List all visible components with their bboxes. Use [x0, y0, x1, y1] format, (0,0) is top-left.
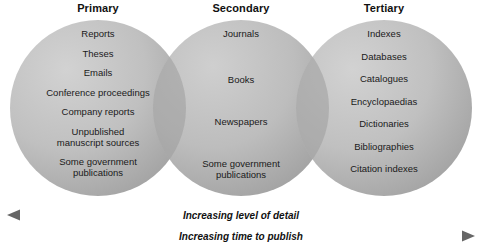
list-item: Catalogues: [360, 73, 408, 84]
list-item: Encyclopaedias: [351, 96, 418, 107]
list-item: Databases: [361, 51, 406, 62]
list-item: Newspapers: [215, 116, 268, 127]
list-item: Journals: [223, 28, 259, 39]
venn-list-tertiary: Indexes Databases Catalogues Encyclopaed…: [296, 20, 472, 204]
list-item: Indexes: [367, 28, 400, 39]
list-item: Dictionaries: [359, 118, 409, 129]
list-item: Company reports: [62, 106, 135, 117]
list-item: Theses: [82, 48, 113, 59]
list-item: Unpublished manuscript sources: [57, 126, 139, 148]
list-item: Emails: [84, 67, 113, 78]
list-item: Reports: [81, 28, 114, 39]
list-item: Some government publications: [59, 156, 137, 178]
list-item: Some government publications: [202, 158, 280, 180]
venn-diagram: Primary Secondary Tertiary: [0, 0, 482, 248]
arrow-increasing-time-to-publish: Increasing time to publish: [0, 226, 482, 246]
list-item: Conference proceedings: [46, 87, 150, 98]
arrow-label-detail: Increasing level of detail: [178, 210, 304, 221]
list-item: Citation indexes: [350, 163, 418, 174]
list-item: Books: [228, 74, 254, 85]
arrow-label-time: Increasing time to publish: [174, 231, 308, 242]
arrow-increasing-level-of-detail: Increasing level of detail: [0, 205, 482, 225]
list-item: Bibliographies: [354, 141, 414, 152]
